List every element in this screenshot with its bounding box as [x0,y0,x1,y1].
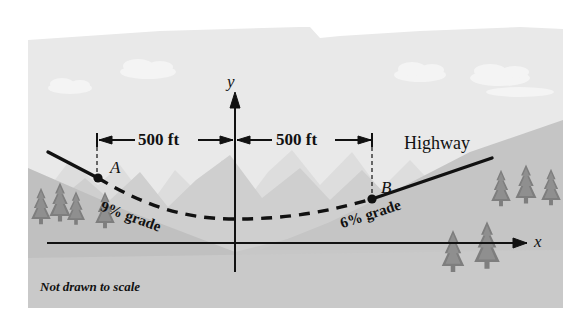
point-label-a: A [110,158,120,178]
point-label-b: B [381,178,391,198]
cloud-icon [147,61,173,73]
point-a-marker [93,173,102,182]
highway-label: Highway [404,133,470,154]
cloud-icon [486,87,554,97]
cloud-icon [70,80,90,90]
cloud-icon [501,66,529,78]
dimension-label-left: 500 ft [138,130,179,150]
highway-grade-figure: 500 ft 500 ft A B y x Highway 9% grade 6… [0,0,583,328]
y-axis-label: y [227,72,235,92]
scene [20,20,580,320]
point-b-marker [367,194,376,203]
dimension-label-right: 500 ft [276,130,317,150]
cloud-icon [420,64,444,76]
x-axis-label: x [534,232,542,252]
not-to-scale-note: Not drawn to scale [40,279,140,295]
